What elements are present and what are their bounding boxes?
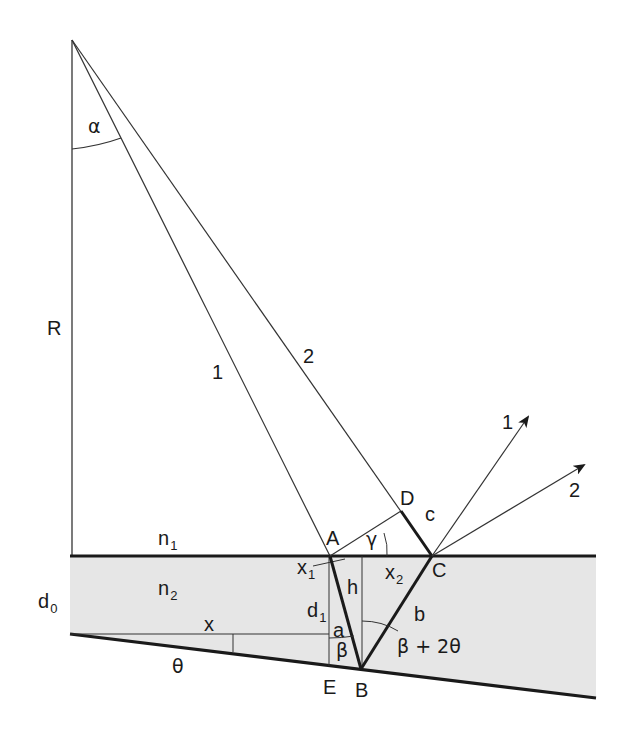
angle-alpha-arc [72,138,121,149]
label-theta: θ [172,657,184,676]
label-alpha: α [88,117,101,136]
wedge-interference-diagram: α R 1 2 1 2 D c A γ C n1 n2 d0 x1 x2 h d… [0,0,624,731]
label-outgoing-ray-1: 1 [502,412,513,432]
label-b: b [414,604,425,624]
label-a: a [333,620,344,640]
incident-ray-2 [72,40,432,556]
outgoing-ray-2-arrow[interactable] [432,465,584,556]
label-n2: n2 [158,578,177,602]
label-h: h [347,577,358,597]
label-point-D: D [400,488,414,508]
label-gamma: γ [366,530,377,549]
label-outgoing-ray-2: 2 [569,480,580,500]
label-point-C: C [432,560,446,580]
label-incident-ray-2: 2 [303,346,314,366]
label-beta: β [336,641,348,660]
outgoing-ray-1-arrow[interactable] [432,417,528,556]
label-n1: n1 [158,528,177,552]
label-beta-plus-2theta: β + 2θ [397,637,461,656]
label-point-E: E [323,677,336,697]
label-d0: d0 [38,591,57,615]
angle-gamma-arc [384,533,387,556]
label-x1: x1 [297,557,315,581]
label-x2: x2 [385,562,403,586]
label-R: R [47,318,61,338]
label-c: c [425,504,435,524]
label-x: x [204,614,214,634]
label-point-A: A [326,528,339,548]
label-incident-ray-1: 1 [212,362,223,382]
incident-ray-1 [72,40,330,556]
label-point-B: B [355,680,368,700]
label-d1: d1 [307,600,326,624]
